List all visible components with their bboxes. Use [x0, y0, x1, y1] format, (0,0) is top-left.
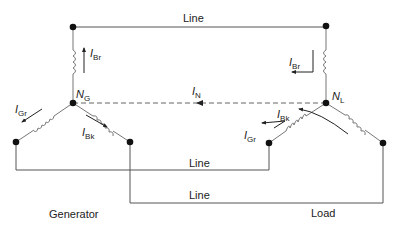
node-gen-neutral [70, 100, 77, 107]
node-gen-right [127, 139, 134, 146]
load-neutral-label: NL [332, 90, 345, 105]
neutral-current-label: IN [192, 85, 201, 100]
node-gen-left [13, 139, 20, 146]
node-load-right [380, 140, 387, 147]
line-label-bottom: Line [189, 189, 210, 201]
wye-wye-circuit-diagram: Line IBr NG IGr IBk IN IBr NL [0, 0, 399, 229]
node-load-neutral [323, 100, 330, 107]
load-coil-br [324, 27, 327, 103]
load-ibr-label: IBr [289, 56, 300, 71]
nodes [13, 23, 387, 147]
generator-label: Generator [49, 208, 99, 220]
neutral-current-arrow [196, 100, 203, 106]
line-wire-middle [16, 142, 269, 170]
generator-ibr-label: IBr [90, 47, 101, 62]
node-load-top [323, 23, 330, 30]
node-load-left [266, 140, 273, 147]
line-wire-bottom [130, 142, 383, 203]
load-igr-label: IGr [244, 129, 256, 144]
load-label: Load [311, 207, 335, 219]
line-label-middle: Line [189, 157, 210, 169]
generator-igr-label: IGr [15, 103, 27, 118]
line-label-top: Line [183, 12, 204, 24]
generator-ibk-label: IBk [82, 126, 95, 141]
load-coil-bk [326, 103, 383, 143]
node-gen-top [70, 24, 77, 31]
generator-neutral-label: NG [76, 88, 90, 103]
